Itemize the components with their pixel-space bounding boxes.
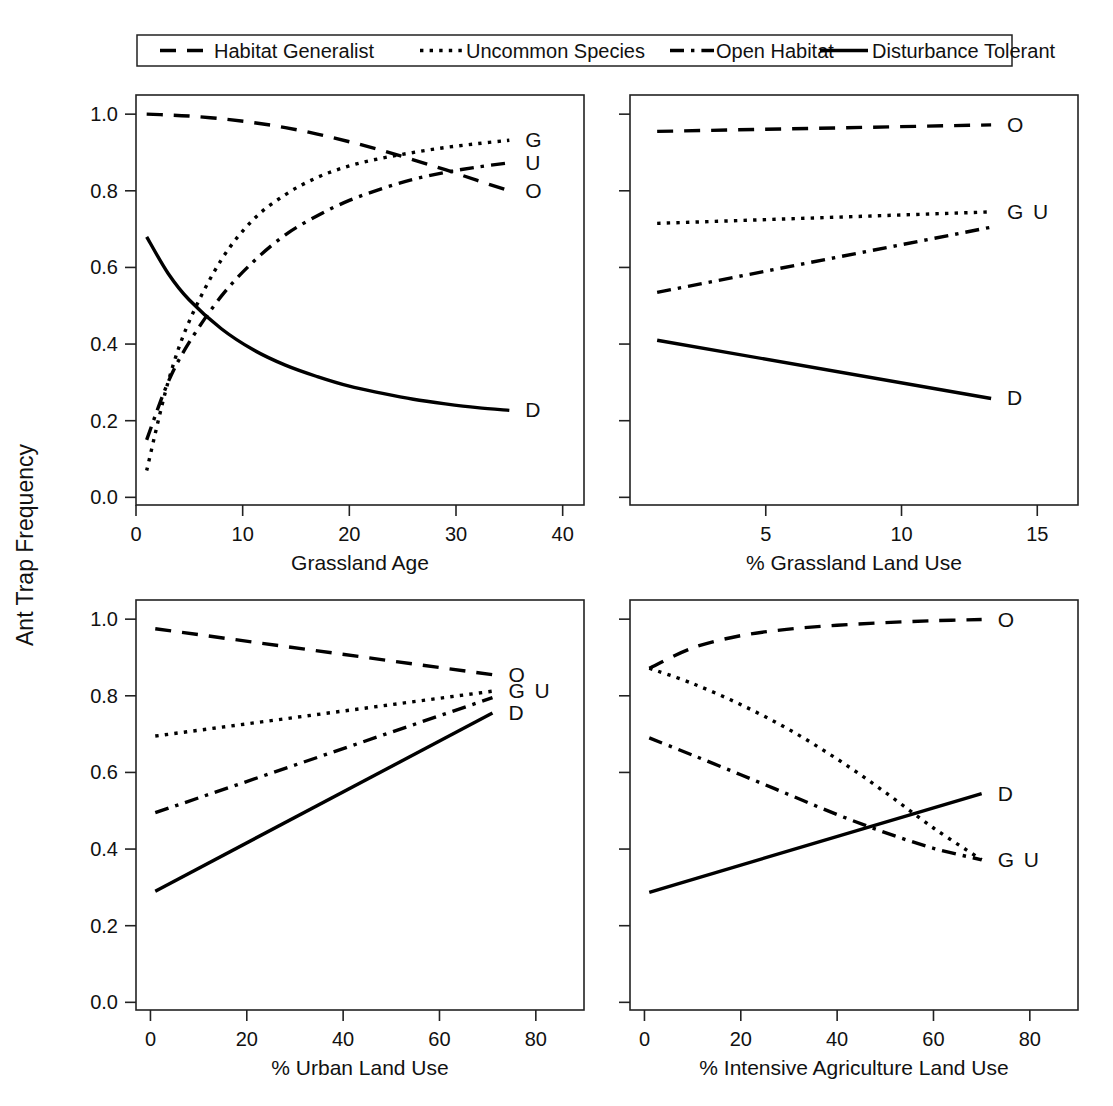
y-tick-label: 0.4 (90, 333, 118, 355)
curve-end-label-D: D (525, 398, 540, 421)
series-line-U (657, 227, 991, 292)
y-tick-label: 0.6 (90, 761, 118, 783)
y-tick-label: 0.0 (90, 991, 118, 1013)
legend: Habitat GeneralistUncommon SpeciesOpen H… (137, 35, 1056, 66)
y-axis-title: Ant Trap Frequency (12, 444, 38, 646)
curve-end-label-U: U (1024, 848, 1039, 871)
x-tick-label: 0 (130, 523, 141, 545)
figure-canvas: Habitat GeneralistUncommon SpeciesOpen H… (0, 0, 1113, 1106)
curve-end-label-D: D (998, 782, 1013, 805)
x-tick-label: 0 (145, 1028, 156, 1050)
series-line-D (649, 794, 981, 893)
panel-bottom-left: 0.00.20.40.60.81.0020406080% Urban Land … (90, 600, 584, 1079)
panel-top-right: 51015% Grassland Land UseOGUD (619, 95, 1078, 574)
panel-frame (136, 95, 584, 505)
series-line-D (155, 713, 492, 891)
series-line-U (155, 698, 492, 813)
panel-top-left: 0.00.20.40.60.81.0010203040Grassland Age… (90, 95, 584, 574)
series-line-O (649, 620, 981, 669)
x-tick-label: 60 (922, 1028, 944, 1050)
series-line-O (147, 114, 510, 191)
y-tick-label: 1.0 (90, 103, 118, 125)
y-tick-label: 0.8 (90, 180, 118, 202)
x-tick-label: 40 (826, 1028, 848, 1050)
legend-label: Uncommon Species (466, 40, 645, 62)
series-line-G (155, 691, 492, 736)
x-axis-title: Grassland Age (291, 551, 429, 574)
series-line-U (147, 163, 510, 440)
x-tick-label: 20 (236, 1028, 258, 1050)
series-line-O (155, 629, 492, 675)
legend-label: Habitat Generalist (214, 40, 375, 62)
x-tick-label: 0 (639, 1028, 650, 1050)
curve-end-label-D: D (1007, 386, 1022, 409)
curve-end-label-G: G (1007, 200, 1023, 223)
ant-trap-frequency-figure: Habitat GeneralistUncommon SpeciesOpen H… (0, 0, 1113, 1106)
panel-frame (630, 600, 1078, 1010)
curve-end-label-O: O (998, 608, 1014, 631)
curve-end-label-U: U (525, 151, 540, 174)
series-line-D (657, 340, 991, 398)
x-tick-label: 5 (760, 523, 771, 545)
panel-frame (136, 600, 584, 1010)
x-tick-label: 15 (1026, 523, 1048, 545)
x-tick-label: 40 (552, 523, 574, 545)
panel-bottom-right: 020406080% Intensive Agriculture Land Us… (619, 600, 1078, 1079)
x-tick-label: 80 (1019, 1028, 1041, 1050)
panels: 0.00.20.40.60.81.0010203040Grassland Age… (90, 95, 1078, 1079)
y-axis-label: Ant Trap Frequency (12, 444, 38, 646)
curve-end-label-G: G (508, 679, 524, 702)
x-axis-title: % Intensive Agriculture Land Use (699, 1056, 1008, 1079)
legend-label: Disturbance Tolerant (872, 40, 1056, 62)
legend-label: Open Habitat (716, 40, 834, 62)
y-tick-label: 0.0 (90, 486, 118, 508)
series-line-O (657, 125, 991, 132)
y-tick-label: 0.2 (90, 915, 118, 937)
x-axis-title: % Grassland Land Use (746, 551, 962, 574)
x-tick-label: 20 (338, 523, 360, 545)
x-axis-title: % Urban Land Use (271, 1056, 448, 1079)
y-tick-label: 1.0 (90, 608, 118, 630)
x-tick-label: 10 (890, 523, 912, 545)
y-tick-label: 0.4 (90, 838, 118, 860)
x-tick-label: 60 (428, 1028, 450, 1050)
x-tick-label: 80 (525, 1028, 547, 1050)
curve-end-label-O: O (525, 179, 541, 202)
curve-end-label-O: O (1007, 113, 1023, 136)
curve-end-label-D: D (508, 701, 523, 724)
series-line-G (649, 668, 981, 860)
curve-end-label-U: U (1033, 200, 1048, 223)
curve-end-label-U: U (534, 679, 549, 702)
y-tick-label: 0.8 (90, 685, 118, 707)
y-tick-label: 0.6 (90, 256, 118, 278)
x-tick-label: 10 (232, 523, 254, 545)
x-tick-label: 40 (332, 1028, 354, 1050)
curve-end-label-G: G (998, 848, 1014, 871)
y-tick-label: 0.2 (90, 410, 118, 432)
curve-end-label-G: G (525, 128, 541, 151)
series-line-G (657, 212, 991, 223)
series-line-G (147, 140, 510, 470)
x-tick-label: 20 (730, 1028, 752, 1050)
x-tick-label: 30 (445, 523, 467, 545)
panel-frame (630, 95, 1078, 505)
